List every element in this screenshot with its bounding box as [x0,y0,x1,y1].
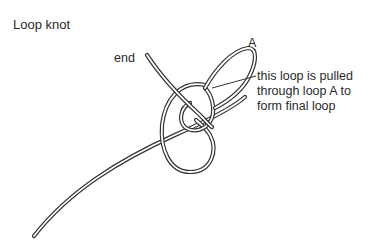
leader-line [212,76,256,88]
note-line-3: form final loop [257,99,353,114]
label-note: this loop is pulled through loop A to fo… [257,69,353,114]
loop-knot-illustration [0,0,372,249]
label-end: end [114,51,135,66]
note-line-2: through loop A to [257,84,353,99]
label-a: A [248,36,256,51]
note-line-1: this loop is pulled [257,69,353,84]
